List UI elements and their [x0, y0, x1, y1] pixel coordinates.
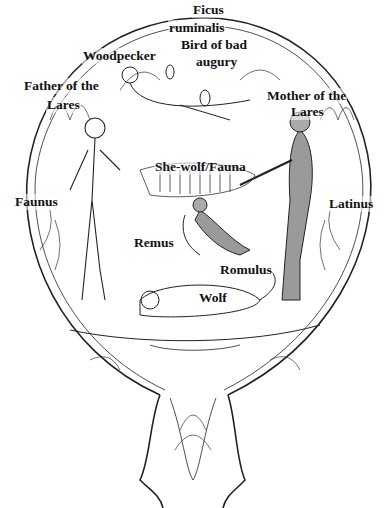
label-ficus-ruminalis-2: ruminalis	[168, 20, 226, 36]
label-mother-of-lares-1: Mother of the	[266, 88, 347, 104]
label-bird-of-bad-augury-1: Bird of bad	[180, 37, 248, 53]
label-romulus: Romulus	[219, 262, 273, 278]
label-latinus: Latinus	[328, 196, 374, 212]
mirror-illustration	[0, 0, 389, 508]
label-ficus-ruminalis-1: Ficus	[192, 2, 225, 18]
label-remus: Remus	[133, 235, 175, 251]
twins-figures	[183, 198, 250, 255]
label-she-wolf-fauna: She-wolf/Fauna	[154, 159, 247, 175]
birds	[166, 65, 210, 106]
reclining-figure	[122, 67, 250, 120]
faunus-figure	[70, 118, 120, 300]
label-bird-of-bad-augury-2: augury	[195, 54, 238, 70]
label-wolf: Wolf	[198, 290, 228, 306]
label-father-of-lares-1: Father of the	[23, 78, 100, 94]
mirror-handle	[140, 395, 163, 508]
label-mother-of-lares-2: Lares	[290, 104, 325, 120]
label-woodpecker: Woodpecker	[82, 48, 157, 64]
label-father-of-lares-2: Lares	[46, 97, 81, 113]
label-faunus: Faunus	[14, 194, 59, 210]
